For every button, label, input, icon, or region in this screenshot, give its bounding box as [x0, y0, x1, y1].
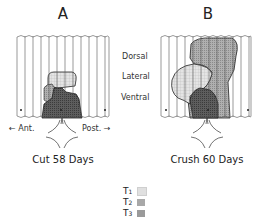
legend-subscript: 3	[129, 210, 133, 217]
panel-b-caption: Crush 60 Days	[160, 154, 254, 165]
region-label-lateral: Lateral	[122, 72, 150, 81]
panel-b-muscle-map	[161, 36, 251, 149]
panel-a-caption: Cut 58 Days	[18, 154, 108, 165]
region-label-dorsal: Dorsal	[122, 52, 148, 61]
legend-swatch-t1	[137, 187, 147, 196]
legend-item-t3: T3	[123, 208, 145, 218]
legend-subscript: 2	[129, 199, 133, 206]
region-label-ventral: Ventral	[121, 93, 149, 102]
legend-swatch-t2	[137, 199, 145, 206]
legend-swatch-t3	[137, 210, 145, 217]
legend-subscript: 1	[129, 188, 133, 195]
panel-a-nerve-icon	[46, 118, 78, 148]
posterior-direction-label: Post. →	[82, 124, 111, 133]
panel-b-title: B	[193, 5, 223, 23]
panel-b-nerve-icon	[191, 118, 223, 148]
panel-a-title: A	[48, 5, 78, 23]
legend-item-t2: T2	[123, 197, 145, 207]
legend-item-t1: T1	[123, 186, 147, 196]
anterior-direction-label: ← Ant.	[9, 124, 34, 133]
